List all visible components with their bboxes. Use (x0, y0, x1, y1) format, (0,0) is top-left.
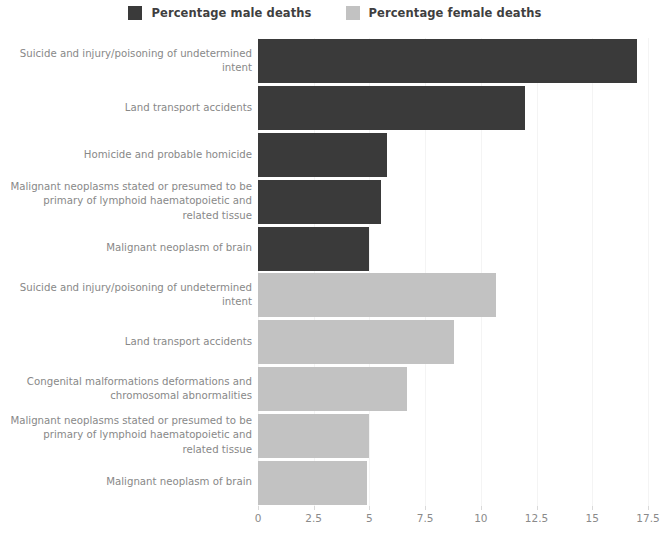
legend-label-female: Percentage female deaths (369, 6, 542, 20)
gridline (648, 38, 649, 506)
chart-legend: Percentage male deaths Percentage female… (0, 6, 670, 20)
x-axis-tick-mark (314, 506, 315, 510)
x-axis-tick-label: 0 (255, 512, 262, 524)
x-axis-tick-mark (537, 506, 538, 510)
x-axis-tick-label: 7.5 (417, 512, 434, 524)
bar (258, 414, 369, 458)
y-axis-label: Malignant neoplasms stated or presumed t… (6, 414, 258, 458)
gridline (592, 38, 593, 506)
x-axis-tick-label: 10 (474, 512, 487, 524)
y-axis-labels: Suicide and injury/poisoning of undeterm… (0, 38, 258, 506)
plot-area (258, 38, 648, 506)
x-axis-tick-label: 17.5 (636, 512, 659, 524)
y-axis-label: Land transport accidents (6, 335, 258, 350)
bar (258, 133, 387, 177)
bar-chart-figure: Percentage male deaths Percentage female… (0, 0, 670, 534)
x-axis-tick-mark (592, 506, 593, 510)
bar (258, 86, 525, 130)
x-axis-tick-mark (648, 506, 649, 510)
legend-entry-female: Percentage female deaths (346, 6, 542, 20)
x-axis-tick-mark (369, 506, 370, 510)
x-axis-tick-mark (258, 506, 259, 510)
legend-swatch-icon (346, 6, 360, 20)
bar (258, 273, 496, 317)
x-axis-tick-label: 5 (366, 512, 373, 524)
legend-entry-male: Percentage male deaths (128, 6, 311, 20)
bar (258, 320, 454, 364)
legend-swatch-icon (128, 6, 142, 20)
x-axis-tick-label: 2.5 (305, 512, 322, 524)
x-axis-ticks: 02.557.51012.51517.5 (0, 506, 670, 534)
bar (258, 227, 369, 271)
y-axis-label: Malignant neoplasm of brain (6, 241, 258, 256)
bar (258, 461, 367, 505)
y-axis-label: Congenital malformations deformations an… (6, 375, 258, 404)
y-axis-label: Malignant neoplasms stated or presumed t… (6, 180, 258, 224)
y-axis-label: Homicide and probable homicide (6, 148, 258, 163)
y-axis-label: Land transport accidents (6, 101, 258, 116)
y-axis-label: Suicide and injury/poisoning of undeterm… (6, 281, 258, 310)
bar (258, 180, 381, 224)
bar (258, 39, 637, 83)
legend-label-male: Percentage male deaths (151, 6, 311, 20)
gridline (537, 38, 538, 506)
x-axis-tick-label: 15 (586, 512, 599, 524)
y-axis-label: Suicide and injury/poisoning of undeterm… (6, 47, 258, 76)
x-axis-tick-mark (425, 506, 426, 510)
bar (258, 367, 407, 411)
x-axis-tick-label: 12.5 (525, 512, 548, 524)
x-axis-tick-mark (481, 506, 482, 510)
y-axis-label: Malignant neoplasm of brain (6, 475, 258, 490)
